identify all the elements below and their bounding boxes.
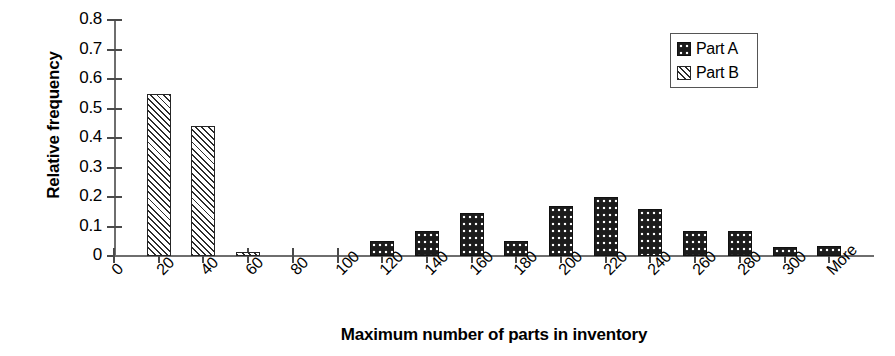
y-tick-label: 0.1 [46, 216, 102, 236]
y-tick-label: 0.8 [46, 9, 102, 29]
legend: Part A Part B [670, 33, 758, 88]
x-tick-label: 0 [108, 260, 127, 279]
y-tick-mark [107, 167, 122, 169]
bar-part-a-260 [683, 231, 707, 256]
y-tick-label: 0.2 [46, 186, 102, 206]
x-tick-label: 20 [153, 254, 178, 279]
bar-part-a-120 [370, 241, 394, 256]
legend-label-part-b: Part B [696, 64, 739, 82]
y-tick-label: 0 [46, 245, 102, 265]
relative-frequency-histogram: Relative frequency 00.10.20.30.40.50.60.… [0, 0, 895, 356]
x-tick-label: 80 [287, 254, 312, 279]
y-tick-mark [107, 78, 122, 80]
bar-part-b-40 [191, 126, 215, 256]
bar-part-a-140 [415, 231, 439, 256]
bar-part-b-20 [147, 94, 171, 256]
y-tick-label: 0.6 [46, 68, 102, 88]
y-tick-label: 0.5 [46, 98, 102, 118]
legend-swatch-part-a-icon [677, 42, 691, 56]
bar-part-a-180 [504, 241, 528, 256]
bar-part-b-60 [236, 252, 260, 256]
bar-part-a-280 [728, 231, 752, 256]
legend-item-part-a: Part A [677, 38, 738, 60]
bar-part-a-240 [638, 209, 662, 256]
legend-item-part-b: Part B [677, 62, 739, 84]
y-tick-mark [107, 108, 122, 110]
y-tick-label: 0.7 [46, 39, 102, 59]
bar-part-a-160 [460, 213, 484, 256]
bar-part-a-More [817, 246, 841, 256]
bar-part-a-220 [594, 197, 618, 256]
legend-swatch-part-b-icon [677, 66, 691, 80]
y-tick-mark [107, 196, 122, 198]
y-tick-label: 0.4 [46, 127, 102, 147]
legend-label-part-a: Part A [696, 40, 738, 58]
y-tick-mark [107, 226, 122, 228]
bar-part-a-200 [549, 206, 573, 256]
x-tick-label: 40 [197, 254, 222, 279]
x-tick-label: 60 [242, 254, 267, 279]
y-tick-label: 0.3 [46, 157, 102, 177]
x-axis-title: Maximum number of parts in inventory [114, 325, 874, 345]
y-tick-mark [107, 49, 122, 51]
y-tick-mark [107, 19, 122, 21]
bar-part-a-300 [773, 247, 797, 256]
y-tick-mark [107, 137, 122, 139]
